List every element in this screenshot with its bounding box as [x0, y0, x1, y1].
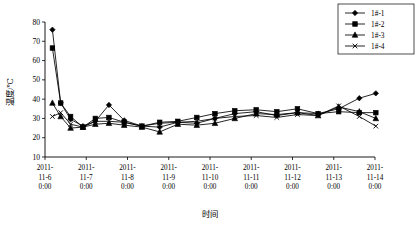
data-point-marker-square — [68, 114, 73, 119]
svg-text:2011-: 2011- — [284, 164, 301, 172]
svg-text:2011-: 2011- — [325, 164, 342, 172]
svg-text:2011-: 2011- — [243, 164, 260, 172]
legend-label: 1#-1 — [371, 9, 385, 18]
svg-text:11-14: 11-14 — [367, 174, 384, 182]
data-point-marker-diamond — [357, 95, 362, 100]
x-tick-label: 2011-11-80:00 — [119, 164, 136, 191]
x-tick-label: 2011-11-140:00 — [367, 164, 384, 191]
svg-text:2011-: 2011- — [37, 164, 54, 172]
svg-text:11-11: 11-11 — [243, 174, 260, 182]
svg-text:0:00: 0:00 — [204, 183, 217, 191]
data-point-marker-triangle — [50, 100, 56, 105]
svg-text:0:00: 0:00 — [286, 183, 299, 191]
y-tick-label: 40 — [32, 95, 40, 104]
data-point-marker-square — [374, 110, 379, 115]
svg-text:11-12: 11-12 — [284, 174, 301, 182]
svg-text:2011-: 2011- — [202, 164, 219, 172]
data-point-marker-square — [213, 111, 218, 116]
x-tick-label: 2011-11-110:00 — [243, 164, 260, 191]
svg-text:11-10: 11-10 — [202, 174, 219, 182]
svg-text:0:00: 0:00 — [39, 183, 52, 191]
y-tick-label: 60 — [32, 56, 40, 65]
x-tick-label: 2011-11-60:00 — [37, 164, 54, 191]
x-axis-tick-labels: 2011-11-60:002011-11-70:002011-11-80:002… — [37, 164, 384, 191]
svg-text:11-9: 11-9 — [162, 174, 175, 182]
data-point-marker-x — [50, 114, 55, 119]
data-point-marker-square — [195, 115, 200, 120]
y-axis-title: 温度/℃ — [5, 78, 15, 106]
legend-label: 1#-3 — [371, 31, 385, 40]
chart-canvas: 1020304050607080 2011-11-60:002011-11-70… — [0, 0, 419, 230]
svg-text:11-6: 11-6 — [39, 174, 52, 182]
svg-text:0:00: 0:00 — [162, 183, 175, 191]
temperature-time-line-chart: 1020304050607080 2011-11-60:002011-11-70… — [0, 0, 419, 230]
x-tick-label: 2011-11-130:00 — [325, 164, 342, 191]
chart-axes — [42, 22, 375, 160]
legend-label: 1#-2 — [371, 20, 385, 29]
y-tick-label: 50 — [32, 75, 40, 84]
x-axis-title: 时间 — [202, 209, 218, 219]
x-tick-label: 2011-11-90:00 — [160, 164, 177, 191]
svg-text:0:00: 0:00 — [121, 183, 134, 191]
data-point-marker-diamond — [50, 27, 55, 32]
data-point-marker-square — [50, 46, 55, 51]
data-point-marker-square — [336, 109, 341, 114]
x-tick-label: 2011-11-120:00 — [284, 164, 301, 191]
y-tick-label: 70 — [32, 37, 40, 46]
data-point-marker-square — [353, 22, 358, 27]
legend-label: 1#-4 — [371, 42, 385, 51]
data-point-marker-square — [232, 108, 237, 113]
data-point-marker-x — [374, 124, 379, 129]
y-tick-label: 20 — [32, 133, 40, 142]
chart-series-group — [50, 27, 379, 134]
svg-text:2011-: 2011- — [367, 164, 384, 172]
y-tick-label: 30 — [32, 114, 40, 123]
svg-text:11-13: 11-13 — [325, 174, 342, 182]
x-tick-label: 2011-11-100:00 — [202, 164, 219, 191]
svg-text:2011-: 2011- — [119, 164, 136, 172]
y-tick-label: 10 — [32, 153, 40, 162]
x-tick-label: 2011-11-70:00 — [78, 164, 95, 191]
svg-text:2011-: 2011- — [78, 164, 95, 172]
y-axis-tick-labels: 1020304050607080 — [32, 18, 40, 162]
svg-text:11-8: 11-8 — [121, 174, 134, 182]
y-tick-label: 80 — [32, 18, 40, 27]
svg-text:0:00: 0:00 — [80, 183, 93, 191]
svg-text:0:00: 0:00 — [369, 183, 382, 191]
chart-legend: 1#-11#-21#-31#-4 — [338, 4, 414, 54]
svg-text:11-7: 11-7 — [80, 174, 93, 182]
data-point-marker-square — [58, 101, 63, 106]
svg-text:0:00: 0:00 — [245, 183, 258, 191]
data-point-marker-diamond — [373, 91, 378, 96]
svg-text:0:00: 0:00 — [327, 183, 340, 191]
svg-text:2011-: 2011- — [160, 164, 177, 172]
data-point-marker-square — [107, 115, 112, 120]
